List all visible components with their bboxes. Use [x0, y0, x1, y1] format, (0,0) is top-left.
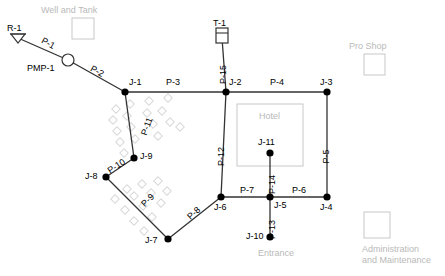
- landscape-square-icon: [154, 177, 162, 185]
- landscape-square-icon: [176, 123, 184, 131]
- landscape-square-icon: [138, 180, 146, 188]
- pipe-label-p-13: P-13: [268, 220, 277, 239]
- pipe-label-p-15: P-15: [219, 65, 228, 84]
- node-label-j-8: J-8: [85, 172, 98, 181]
- junction-node-j-1[interactable]: [121, 88, 128, 95]
- junction-node-j-5[interactable]: [266, 193, 273, 200]
- node-label-r-1: R-1: [7, 24, 22, 33]
- junction-node-j-2[interactable]: [222, 88, 229, 95]
- node-label-j-6: J-6: [214, 203, 227, 212]
- landscape-square-icon: [130, 217, 138, 225]
- pipe-p-9[interactable]: [106, 177, 168, 239]
- building-label-pro-shop: Pro Shop: [349, 41, 387, 52]
- landscape-square-icon: [123, 185, 131, 193]
- landscape-square-icon: [158, 107, 166, 115]
- landscape-square-icon: [164, 94, 172, 102]
- building-label-hotel: Hotel: [259, 111, 280, 122]
- junction-node-j-11[interactable]: [266, 149, 273, 156]
- landscape-square-icon: [166, 118, 174, 126]
- buildings-layer: [72, 18, 390, 238]
- landscape-square-icon: [157, 199, 165, 207]
- landscape-square-icon: [163, 187, 171, 195]
- pump-icon-pmp-1[interactable]: [62, 54, 74, 66]
- landscape-square-icon: [140, 227, 148, 235]
- pipe-label-p-5: P-5: [322, 149, 331, 163]
- pipe-label-p-6: P-6: [292, 186, 306, 195]
- building-label-line2: and Maintenance: [362, 255, 431, 265]
- landscape-square-icon: [116, 138, 124, 146]
- diagram-canvas: R-1PMP-1T-1J-1J-2J-3J-4J-5J-6J-7J-8J-9J-…: [0, 0, 445, 276]
- reservoir-icon-r-1[interactable]: [10, 34, 26, 43]
- node-label-j-9: J-9: [140, 152, 153, 161]
- node-label-pmp-1: PMP-1: [27, 64, 55, 73]
- node-label-j-4: J-4: [320, 203, 333, 212]
- building-label-administration-and-maintenance: Administrationand Maintenance: [362, 244, 431, 266]
- landscape-square-icon: [112, 105, 120, 113]
- pipe-p-12[interactable]: [221, 92, 226, 197]
- pipe-label-p-14: P-14: [268, 175, 277, 194]
- junction-node-j-9[interactable]: [130, 154, 137, 161]
- landscape-square-icon: [109, 116, 117, 124]
- node-label-j-2: J-2: [229, 78, 242, 87]
- tank-body: [216, 28, 228, 43]
- building-box-pro-shop: [364, 54, 385, 75]
- node-label-j-5: J-5: [274, 201, 287, 210]
- junction-node-j-7[interactable]: [164, 235, 171, 242]
- junction-node-j-4[interactable]: [323, 193, 330, 200]
- node-label-j-11: J-11: [258, 138, 275, 147]
- junction-node-j-8[interactable]: [102, 173, 109, 180]
- junction-node-j-6[interactable]: [217, 193, 224, 200]
- pipe-label-p-4: P-4: [270, 78, 284, 87]
- building-box-well-and-tank: [72, 18, 94, 39]
- landscape-square-icon: [123, 112, 131, 120]
- landscape-square-icon: [130, 192, 138, 200]
- building-label-entrance: Entrance: [258, 248, 294, 259]
- building-box-administration-and-maintenance: [364, 212, 390, 238]
- landscape-square-icon: [121, 206, 129, 214]
- junction-node-j-3[interactable]: [323, 88, 330, 95]
- node-label-j-3: J-3: [320, 78, 333, 87]
- node-label-j-10: J-10: [246, 232, 264, 241]
- pipe-label-p-7: P-7: [240, 186, 254, 195]
- tank-icon-t-1[interactable]: [216, 28, 228, 43]
- landscape-square-icon: [154, 132, 162, 140]
- landscape-square-icon: [145, 97, 153, 105]
- reservoir-body: [11, 34, 25, 43]
- pipe-label-p-12: P-12: [217, 147, 226, 166]
- node-label-t-1: T-1: [213, 19, 226, 28]
- landscape-square-icon: [111, 195, 119, 203]
- building-label-well-and-tank: Well and Tank: [41, 5, 97, 16]
- landscape-square-icon: [113, 127, 121, 135]
- landscape-square-icon: [127, 123, 135, 131]
- node-label-j-7: J-7: [145, 236, 158, 245]
- pipe-label-p-3: P-3: [166, 78, 180, 87]
- node-label-j-1: J-1: [129, 78, 142, 87]
